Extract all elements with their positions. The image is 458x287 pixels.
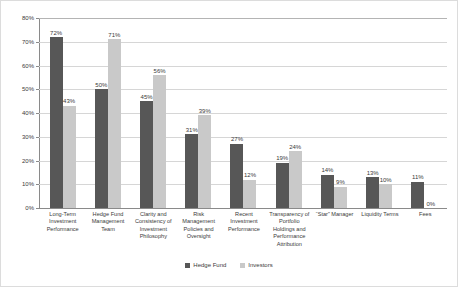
bar-group: 31%39% <box>176 18 221 208</box>
bar-group-bars: 50%71% <box>85 18 130 208</box>
bar-slot: 24% <box>289 18 302 208</box>
bar-group-bars: 13%10% <box>357 18 402 208</box>
bar-value-label: 24% <box>289 144 301 150</box>
bar-slot: 39% <box>198 18 211 208</box>
x-axis-label: Transparency of Portfolio Holdings and P… <box>267 211 312 248</box>
bar-value-label: 27% <box>231 136 243 142</box>
bar-slot: 56% <box>153 18 166 208</box>
bar-group: 27%12% <box>221 18 266 208</box>
gridline <box>39 208 447 209</box>
y-tick-label: 80% <box>22 15 34 21</box>
bar-slot: 12% <box>243 18 256 208</box>
bar-value-label: 45% <box>141 94 153 100</box>
bar-group-bars: 19%24% <box>266 18 311 208</box>
bar-groups: 72%43%50%71%45%56%31%39%27%12%19%24%14%9… <box>40 18 447 208</box>
bar-value-label: 72% <box>50 30 62 36</box>
bar[interactable] <box>108 39 121 208</box>
bar-slot: 9% <box>334 18 347 208</box>
x-axis-label: Clarity and Consistency of Investment Ph… <box>131 211 176 248</box>
legend-item[interactable]: Investors <box>240 262 272 268</box>
bar[interactable] <box>140 101 153 208</box>
x-axis-label: Long-Term Investment Performance <box>40 211 85 248</box>
bar[interactable] <box>289 151 302 208</box>
bar[interactable] <box>153 75 166 208</box>
bar-chart-figure: 0%10%20%30%40%50%60%70%80% 72%43%50%71%4… <box>0 0 458 287</box>
bar-value-label: 71% <box>108 32 120 38</box>
bar-group-bars: 14%9% <box>311 18 356 208</box>
bar-group: 14%9% <box>311 18 356 208</box>
y-tick-label: 70% <box>22 39 34 45</box>
bar-slot: 13% <box>366 18 379 208</box>
bar-group: 11%0% <box>402 18 447 208</box>
y-tick-mark <box>36 184 39 185</box>
bar[interactable] <box>411 182 424 208</box>
bar-slot: 10% <box>379 18 392 208</box>
plot-area: 0%10%20%30%40%50%60%70%80% 72%43%50%71%4… <box>39 18 447 208</box>
legend-swatch-icon <box>185 263 190 268</box>
bar-group: 13%10% <box>357 18 402 208</box>
bar[interactable] <box>243 180 256 209</box>
bar-slot: 14% <box>321 18 334 208</box>
bar-group-bars: 45%56% <box>130 18 175 208</box>
bar[interactable] <box>185 134 198 208</box>
bar[interactable] <box>230 144 243 208</box>
bar-value-label: 31% <box>186 127 198 133</box>
x-axis-label: Liquidity Terms <box>357 211 402 248</box>
legend-label: Hedge Fund <box>193 262 226 268</box>
y-tick-mark <box>36 208 39 209</box>
bar-value-label: 9% <box>336 179 345 185</box>
bar-slot: 19% <box>276 18 289 208</box>
y-tick-label: 60% <box>22 63 34 69</box>
y-tick-mark <box>36 66 39 67</box>
y-tick-label: 50% <box>22 86 34 92</box>
y-tick-mark <box>36 89 39 90</box>
bar-slot: 11% <box>411 18 424 208</box>
bar-group: 45%56% <box>130 18 175 208</box>
y-tick-mark <box>36 161 39 162</box>
x-axis-label: Fees <box>403 211 448 248</box>
y-tick-label: 40% <box>22 110 34 116</box>
y-tick-label: 10% <box>22 181 34 187</box>
legend-swatch-icon <box>240 263 245 268</box>
bar-group-bars: 72%43% <box>40 18 85 208</box>
bar-slot: 43% <box>63 18 76 208</box>
bar[interactable] <box>50 37 63 208</box>
bar[interactable] <box>95 89 108 208</box>
y-tick-mark <box>36 18 39 19</box>
bar-value-label: 50% <box>95 82 107 88</box>
x-axis-label: Risk Management Policies and Oversight <box>176 211 221 248</box>
bar-value-label: 19% <box>276 155 288 161</box>
bar[interactable] <box>366 177 379 208</box>
x-axis-label: “Star” Manager <box>312 211 357 248</box>
bar-group-bars: 27%12% <box>221 18 266 208</box>
bar-group-bars: 11%0% <box>402 18 447 208</box>
bar-value-label: 56% <box>154 68 166 74</box>
bar-group-bars: 31%39% <box>176 18 221 208</box>
bar[interactable] <box>276 163 289 208</box>
y-tick-mark <box>36 42 39 43</box>
bar-value-label: 11% <box>412 174 424 180</box>
x-axis-label: Recent Investment Performance <box>221 211 266 248</box>
legend-label: Investors <box>248 262 272 268</box>
bar-value-label: 10% <box>380 177 392 183</box>
bar-slot: 0% <box>424 18 437 208</box>
bar-value-label: 39% <box>199 108 211 114</box>
chart-legend: Hedge FundInvestors <box>1 262 457 268</box>
bar-value-label: 12% <box>244 172 256 178</box>
bar-slot: 27% <box>230 18 243 208</box>
x-axis-category-labels: Long-Term Investment PerformanceHedge Fu… <box>40 211 448 248</box>
bar-slot: 50% <box>95 18 108 208</box>
x-axis-label: Hedge Fund Management Team <box>85 211 130 248</box>
y-tick-label: 20% <box>22 158 34 164</box>
bar-slot: 72% <box>50 18 63 208</box>
legend-item[interactable]: Hedge Fund <box>185 262 226 268</box>
bar[interactable] <box>63 106 76 208</box>
bar-slot: 45% <box>140 18 153 208</box>
bar-value-label: 0% <box>427 201 436 207</box>
bar[interactable] <box>198 115 211 208</box>
bar-group: 50%71% <box>85 18 130 208</box>
bar[interactable] <box>334 187 347 208</box>
bar[interactable] <box>321 175 334 208</box>
bar[interactable] <box>379 184 392 208</box>
y-tick-label: 30% <box>22 134 34 140</box>
